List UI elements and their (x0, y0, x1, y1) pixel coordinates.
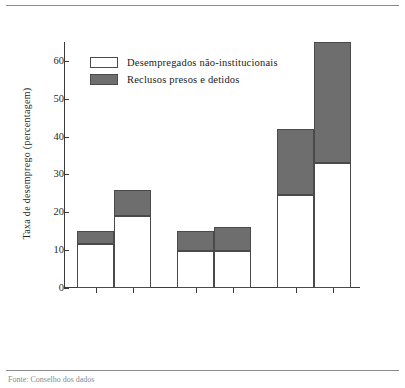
bar-segment-incarcerated-detained (77, 231, 114, 244)
bar-segment-incarcerated-detained (277, 129, 314, 195)
y-axis-tick-label: 60 (30, 55, 64, 67)
bar-5[interactable] (314, 42, 351, 288)
legend-item-1[interactable]: Reclusos presos e detidos (90, 72, 278, 87)
bar-segment-unemployed-noninstitutional (114, 216, 151, 288)
bar-3[interactable] (214, 227, 251, 288)
y-axis-tick-label: 30 (30, 168, 64, 180)
legend-item-0[interactable]: Desempregados não-institucionais (90, 55, 278, 70)
bar-segment-incarcerated-detained (214, 227, 251, 251)
y-axis-tick-mark (64, 212, 69, 213)
page-rule-bottom (6, 370, 399, 371)
bar-segment-incarcerated-detained (177, 231, 214, 251)
legend-label: Desempregados não-institucionais (127, 57, 278, 68)
bar-segment-unemployed-noninstitutional (214, 251, 251, 288)
bar-4[interactable] (277, 129, 314, 288)
y-axis-tick-label: 0 (30, 282, 64, 294)
chart-figure: Taxa de desemprego (percentagem) 0102030… (0, 8, 405, 366)
y-axis-tick-label: 10 (30, 244, 64, 256)
bar-0[interactable] (77, 231, 114, 288)
x-axis-tick-mark (233, 288, 234, 293)
bar-segment-unemployed-noninstitutional (314, 163, 351, 288)
bar-segment-incarcerated-detained (114, 190, 151, 216)
x-axis-tick-mark (133, 288, 134, 293)
bar-segment-unemployed-noninstitutional (177, 251, 214, 288)
y-axis-tick-mark (64, 288, 69, 289)
source-caption: Fonte: Conselho dos dados (8, 375, 94, 384)
legend-label: Reclusos presos e detidos (127, 74, 240, 85)
y-axis-tick-mark (64, 61, 69, 62)
bar-segment-unemployed-noninstitutional (77, 244, 114, 288)
y-axis-tick-mark (64, 250, 69, 251)
legend-swatch-gray (90, 74, 118, 85)
x-axis-tick-mark (333, 288, 334, 293)
bar-segment-incarcerated-detained (314, 42, 351, 163)
y-axis-tick-label: 20 (30, 206, 64, 218)
y-axis-tick-mark (64, 137, 69, 138)
y-axis-tick-mark (64, 174, 69, 175)
chart-legend: Desempregados não-institucionaisReclusos… (90, 55, 278, 89)
x-axis-tick-mark (96, 288, 97, 293)
legend-swatch-white (90, 57, 118, 68)
y-axis-tick-mark (64, 99, 69, 100)
bar-segment-unemployed-noninstitutional (277, 195, 314, 288)
bar-1[interactable] (114, 190, 151, 288)
x-axis-tick-mark (196, 288, 197, 293)
page-rule-top (6, 5, 399, 6)
y-axis-tick-label: 50 (30, 93, 64, 105)
y-axis-tick-label: 40 (30, 131, 64, 143)
bar-2[interactable] (177, 231, 214, 288)
x-axis-tick-mark (296, 288, 297, 293)
